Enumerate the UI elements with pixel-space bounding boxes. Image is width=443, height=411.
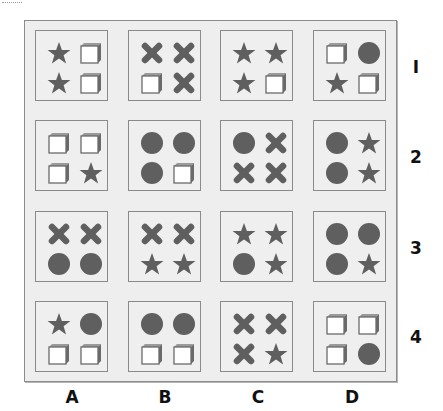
cube-icon	[356, 70, 382, 96]
circle-icon	[46, 251, 72, 277]
cross-icon	[263, 130, 289, 156]
cube-icon	[46, 160, 72, 186]
circle-icon	[356, 221, 382, 247]
row-label-4: 4	[408, 327, 424, 347]
cube-icon	[171, 341, 197, 367]
cell-d3[interactable]	[313, 211, 386, 282]
star-icon	[46, 70, 72, 96]
cube-icon	[263, 70, 289, 96]
cube-icon	[78, 70, 104, 96]
star-icon	[171, 251, 197, 277]
column-label-d: D	[337, 387, 367, 407]
dotted-mark	[2, 2, 22, 5]
star-icon	[231, 40, 257, 66]
circle-icon	[78, 251, 104, 277]
circle-icon	[139, 311, 165, 337]
row-label-3: 3	[408, 238, 424, 258]
cell-a2[interactable]	[35, 120, 108, 191]
cell-b2[interactable]	[128, 120, 201, 191]
cube-icon	[46, 130, 72, 156]
cross-icon	[231, 341, 257, 367]
star-icon	[263, 221, 289, 247]
star-icon	[46, 311, 72, 337]
circle-icon	[324, 160, 350, 186]
cell-a4[interactable]	[35, 301, 108, 372]
cell-b4[interactable]	[128, 301, 201, 372]
cell-d2[interactable]	[313, 120, 386, 191]
circle-icon	[171, 130, 197, 156]
cell-a3[interactable]	[35, 211, 108, 282]
cell-c3[interactable]	[220, 211, 293, 282]
cube-icon	[78, 341, 104, 367]
row-label-2: 2	[408, 147, 424, 167]
star-icon	[231, 70, 257, 96]
cube-icon	[139, 341, 165, 367]
cell-c2[interactable]	[220, 120, 293, 191]
circle-icon	[139, 160, 165, 186]
star-icon	[263, 40, 289, 66]
star-icon	[46, 40, 72, 66]
cube-icon	[324, 40, 350, 66]
circle-icon	[171, 311, 197, 337]
cell-d4[interactable]	[313, 301, 386, 372]
cell-b3[interactable]	[128, 211, 201, 282]
star-icon	[356, 130, 382, 156]
cross-icon	[78, 221, 104, 247]
cross-icon	[171, 221, 197, 247]
star-icon	[356, 160, 382, 186]
cube-icon	[139, 70, 165, 96]
cell-c4[interactable]	[220, 301, 293, 372]
star-icon	[231, 221, 257, 247]
circle-icon	[324, 221, 350, 247]
cross-icon	[263, 311, 289, 337]
cube-icon	[324, 311, 350, 337]
star-icon	[78, 160, 104, 186]
circle-icon	[324, 130, 350, 156]
cross-icon	[139, 40, 165, 66]
cube-icon	[324, 341, 350, 367]
cross-icon	[171, 40, 197, 66]
cell-d1[interactable]	[313, 30, 386, 101]
cube-icon	[171, 160, 197, 186]
circle-icon	[356, 40, 382, 66]
circle-icon	[324, 251, 350, 277]
column-label-b: B	[150, 387, 180, 407]
circle-icon	[231, 130, 257, 156]
star-icon	[139, 251, 165, 277]
cross-icon	[46, 221, 72, 247]
cell-b1[interactable]	[128, 30, 201, 101]
cross-icon	[231, 160, 257, 186]
cell-c1[interactable]	[220, 30, 293, 101]
star-icon	[356, 251, 382, 277]
row-label-1: I	[408, 57, 424, 77]
circle-icon	[78, 311, 104, 337]
circle-icon	[139, 130, 165, 156]
column-label-c: C	[243, 387, 273, 407]
circle-icon	[356, 341, 382, 367]
column-label-a: A	[57, 387, 87, 407]
circle-icon	[231, 251, 257, 277]
cross-icon	[263, 160, 289, 186]
cell-a1[interactable]	[35, 30, 108, 101]
cross-icon	[171, 70, 197, 96]
cube-icon	[78, 130, 104, 156]
star-icon	[263, 341, 289, 367]
cube-icon	[78, 40, 104, 66]
star-icon	[263, 251, 289, 277]
cube-icon	[46, 341, 72, 367]
cross-icon	[231, 311, 257, 337]
star-icon	[324, 70, 350, 96]
cross-icon	[139, 221, 165, 247]
cube-icon	[356, 311, 382, 337]
